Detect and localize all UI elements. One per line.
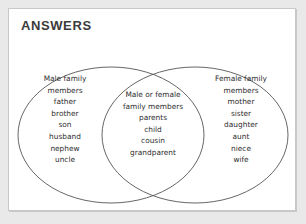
left-set-title-line-2: members [23,85,107,97]
left-set-item: son [23,119,107,131]
right-set-item: aunt [199,131,283,143]
left-set-item: nephew [23,143,107,155]
left-set-label-group: Male family members father brother son h… [23,73,107,166]
right-set-item: daughter [199,119,283,131]
left-set-item: brother [23,108,107,120]
right-set-item: wife [199,154,283,166]
intersection-item: grandparent [111,147,195,159]
page-top-margin [0,0,306,8]
venn-diagram: Male family members father brother son h… [9,9,297,212]
left-set-title-line-1: Male family [23,73,107,85]
right-set-item: sister [199,108,283,120]
intersection-title-line-2: family members [111,101,195,113]
intersection-item: parents [111,112,195,124]
page-root: ANSWERS Male family members father broth… [0,0,306,224]
right-set-title-line-2: members [199,85,283,97]
intersection-label-group: Male or female family members parents ch… [111,89,195,159]
right-set-label-group: Female family members mother sister daug… [199,73,283,166]
right-set-title-line-1: Female family [199,73,283,85]
right-set-item: mother [199,96,283,108]
left-set-item: husband [23,131,107,143]
answers-card: ANSWERS Male family members father broth… [8,8,296,211]
intersection-item: cousin [111,135,195,147]
left-set-item: uncle [23,154,107,166]
right-set-item: niece [199,143,283,155]
left-set-item: father [23,96,107,108]
intersection-title-line-1: Male or female [111,89,195,101]
intersection-item: child [111,124,195,136]
